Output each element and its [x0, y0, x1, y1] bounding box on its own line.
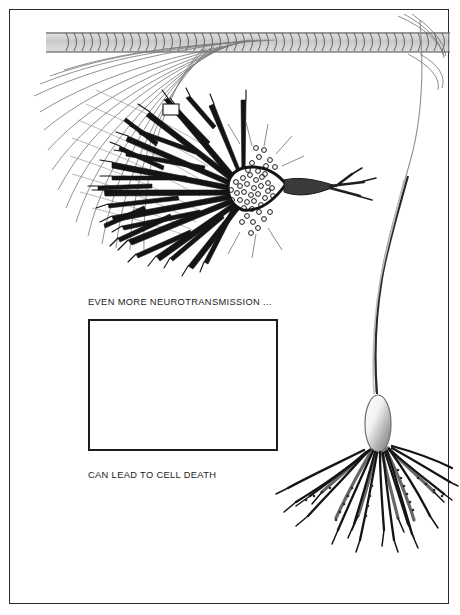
descending-axon [373, 20, 422, 394]
neuron-illustration [0, 0, 460, 615]
lower-neuron [276, 395, 458, 552]
caption-bottom: CAN LEAD TO CELL DEATH [88, 470, 216, 480]
caption-top: EVEN MORE NEUROTRANSMISSION ... [88, 297, 272, 307]
inset-marker-box [163, 104, 179, 115]
synapse-inset-frame [88, 319, 278, 451]
lower-soma [365, 395, 391, 453]
figure-page: EVEN MORE NEUROTRANSMISSION ... CAN LEAD… [0, 0, 460, 615]
upper-neuron [88, 88, 376, 276]
